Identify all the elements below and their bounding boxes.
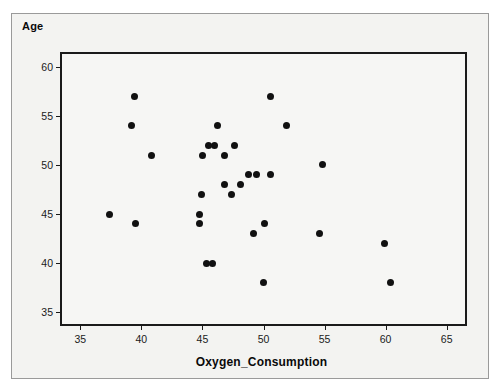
data-point (260, 279, 267, 286)
x-axis-tick (447, 324, 448, 330)
data-point (231, 142, 238, 149)
data-point (319, 161, 326, 168)
data-point (245, 171, 252, 178)
data-point (132, 220, 139, 227)
x-axis-tick-label: 65 (441, 333, 453, 345)
y-axis-tick-label: 60 (41, 61, 53, 73)
data-point (316, 230, 323, 237)
y-axis-tick (56, 116, 62, 117)
scatter-plot-figure: Age 35404550556035404550556065 Oxygen_Co… (0, 0, 500, 392)
x-axis-tick-label: 45 (197, 333, 209, 345)
data-point (267, 171, 274, 178)
data-point (221, 181, 228, 188)
data-point (128, 122, 135, 129)
data-point (214, 122, 221, 129)
data-point (267, 93, 274, 100)
data-point (253, 171, 260, 178)
data-point (381, 240, 388, 247)
x-axis-tick (141, 324, 142, 330)
y-axis-tick (56, 165, 62, 166)
data-point (387, 279, 394, 286)
y-axis-tick-label: 55 (41, 110, 53, 122)
x-axis-tick-label: 60 (380, 333, 392, 345)
data-point (199, 152, 206, 159)
y-axis-tick (56, 214, 62, 215)
data-point (131, 93, 138, 100)
data-point (250, 230, 257, 237)
y-axis-tick (56, 67, 62, 68)
data-point (198, 191, 205, 198)
x-axis-tick (80, 324, 81, 330)
data-point (211, 142, 218, 149)
data-point (196, 211, 203, 218)
plot-area: 35404550556035404550556065 (60, 52, 467, 326)
x-axis-tick (386, 324, 387, 330)
x-axis-tick (325, 324, 326, 330)
data-point (237, 181, 244, 188)
data-point (106, 211, 113, 218)
data-point (148, 152, 155, 159)
x-axis-tick-label: 50 (258, 333, 270, 345)
y-axis-tick-label: 50 (41, 159, 53, 171)
x-axis-tick (202, 324, 203, 330)
x-axis-tick-label: 35 (74, 333, 86, 345)
data-point (283, 122, 290, 129)
data-point (261, 220, 268, 227)
y-axis-tick-label: 35 (41, 306, 53, 318)
x-axis-tick (264, 324, 265, 330)
x-axis-tick-label: 55 (319, 333, 331, 345)
data-point (221, 152, 228, 159)
data-point (209, 260, 216, 267)
y-axis-tick (56, 312, 62, 313)
y-axis-tick-label: 40 (41, 257, 53, 269)
data-points-layer (62, 54, 465, 324)
y-axis-title: Age (22, 20, 43, 32)
data-point (196, 220, 203, 227)
x-axis-title: Oxygen_Consumption (60, 355, 463, 369)
y-axis-tick-label: 45 (41, 208, 53, 220)
y-axis-tick (56, 263, 62, 264)
data-point (228, 191, 235, 198)
x-axis-tick-label: 40 (136, 333, 148, 345)
